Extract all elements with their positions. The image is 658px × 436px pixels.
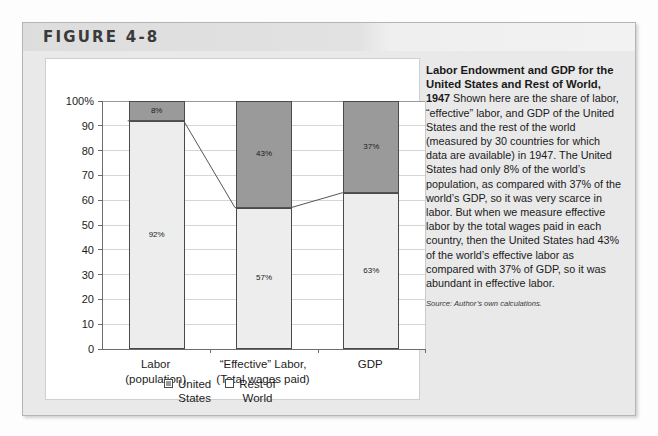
y-axis-label: 100% (66, 95, 94, 107)
x-axis-category-label: GDP (300, 357, 440, 372)
stacked-bar: 63%37% (343, 101, 399, 349)
y-axis-tick (98, 101, 103, 102)
figure-page: FIGURE 4-8 0102030405060708090100%92%8%5… (0, 0, 658, 436)
y-axis-tick (98, 200, 103, 201)
legend-swatch-rest-of-world (225, 379, 234, 388)
y-axis-tick (98, 150, 103, 151)
legend-label-united-states: United States (178, 377, 211, 405)
bar-value-label: 8% (130, 106, 184, 115)
y-axis-label: 0 (88, 343, 94, 355)
caption-title: Labor Endowment and GDP for the United S… (426, 63, 622, 91)
y-axis-tick (98, 299, 103, 300)
y-axis-tick (98, 175, 103, 176)
y-axis-label: 70 (82, 169, 94, 181)
stacked-bar: 92%8% (129, 101, 185, 349)
y-axis-tick (98, 125, 103, 126)
y-axis-tick (98, 324, 103, 325)
y-axis-tick (98, 249, 103, 250)
figure-caption: Labor Endowment and GDP for the United S… (426, 63, 622, 308)
y-axis-tick (98, 225, 103, 226)
figure-label: FIGURE 4-8 (43, 28, 159, 46)
bar-segment-united-states: 43% (236, 101, 292, 208)
y-axis-label: 30 (82, 269, 94, 281)
figure-frame: FIGURE 4-8 0102030405060708090100%92%8%5… (22, 22, 636, 416)
plot-area: 0102030405060708090100%92%8%57%43%63%37% (102, 101, 425, 350)
y-axis-label: 80 (82, 145, 94, 157)
x-axis-tick (425, 349, 426, 353)
y-axis-tick (98, 349, 103, 350)
bar-value-label: 92% (130, 230, 184, 239)
legend-item-united-states: United States (164, 377, 211, 405)
y-axis-label: 20 (82, 293, 94, 305)
x-axis-tick (318, 349, 319, 353)
bar-segment-united-states: 8% (129, 101, 185, 121)
stacked-bar: 57%43% (236, 101, 292, 349)
y-axis-tick (98, 274, 103, 275)
chart-panel: 0102030405060708090100%92%8%57%43%63%37%… (45, 58, 420, 400)
bar-value-label: 63% (344, 266, 398, 275)
y-axis-label: 50 (82, 219, 94, 231)
legend-swatch-united-states (164, 379, 173, 388)
category-label-line1: GDP (300, 357, 440, 372)
bar-value-label: 43% (237, 149, 291, 158)
bar-segment-rest-of-world: 92% (129, 121, 185, 349)
figure-header-band: FIGURE 4-8 (23, 23, 635, 51)
y-axis-label: 90 (82, 120, 94, 132)
bar-segment-united-states: 37% (343, 101, 399, 193)
y-axis-label: 60 (82, 194, 94, 206)
caption-body: 1947 Shown here are the share of labor, … (426, 91, 622, 290)
caption-source: Source: Author’s own calculations. (426, 299, 622, 308)
bar-value-label: 57% (237, 273, 291, 282)
bar-value-label: 37% (344, 142, 398, 151)
x-axis-tick (210, 349, 211, 353)
bar-segment-rest-of-world: 57% (236, 208, 292, 349)
chart-legend: United States Rest of World (164, 377, 276, 405)
caption-year: 1947 (426, 92, 450, 104)
bar-segment-rest-of-world: 63% (343, 193, 399, 349)
y-axis-label: 10 (82, 318, 94, 330)
caption-text: Shown here are the share of labor, “effe… (426, 92, 621, 289)
legend-label-rest-of-world: Rest of World (239, 377, 275, 405)
y-axis-label: 40 (82, 244, 94, 256)
legend-item-rest-of-world: Rest of World (225, 377, 275, 405)
